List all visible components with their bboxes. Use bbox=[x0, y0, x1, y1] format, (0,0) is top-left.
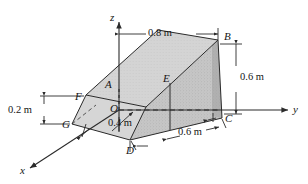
origin-label-O: O bbox=[110, 103, 118, 114]
vertex-label-B: B bbox=[224, 31, 231, 42]
dim-label-bottom-depth: 0.6 m bbox=[178, 127, 202, 138]
axis-label-y: y bbox=[293, 104, 298, 115]
vertex-label-C: C bbox=[225, 113, 232, 124]
vertex-label-D: D bbox=[126, 145, 134, 156]
vertex-label-A: A bbox=[105, 79, 112, 90]
vertex-label-G: G bbox=[62, 119, 70, 130]
engineering-diagram: z y x A B C D E F G O 0.8 m 0.6 m 0.6 m … bbox=[0, 0, 308, 184]
dim-label-right-height: 0.6 m bbox=[240, 72, 264, 83]
dim-label-origin-offset: 0.4 m bbox=[108, 118, 132, 129]
axis-label-x: x bbox=[20, 165, 25, 176]
axis-label-z: z bbox=[110, 12, 114, 23]
dim-label-left-height: 0.2 m bbox=[8, 105, 32, 116]
dim-06b-right bbox=[206, 127, 219, 130]
dim-label-top-width: 0.8 m bbox=[148, 28, 172, 39]
vertex-label-F: F bbox=[75, 91, 82, 102]
vertex-label-E: E bbox=[163, 73, 170, 84]
